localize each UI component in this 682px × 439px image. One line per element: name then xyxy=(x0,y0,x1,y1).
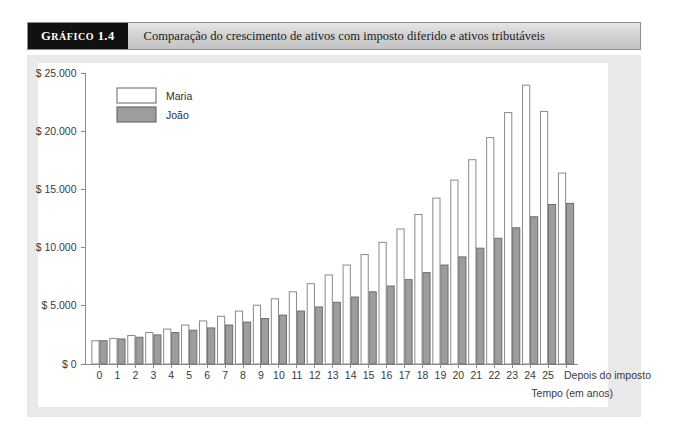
figure-label-number: 1.4 xyxy=(98,29,115,43)
figure-label-smallcaps: RÁFICO xyxy=(51,31,94,42)
figure-label-text: GRÁFICO 1.4 xyxy=(41,29,115,44)
figure-caption-text: Comparação do crescimento de ativos com … xyxy=(128,23,546,49)
figure-inner-panel xyxy=(38,63,608,407)
figure-label-tag: GRÁFICO 1.4 xyxy=(28,23,128,49)
figure-caption-bar: GRÁFICO 1.4 Comparação do crescimento de… xyxy=(27,22,641,50)
figure-root: GRÁFICO 1.4 Comparação do crescimento de… xyxy=(0,0,682,439)
